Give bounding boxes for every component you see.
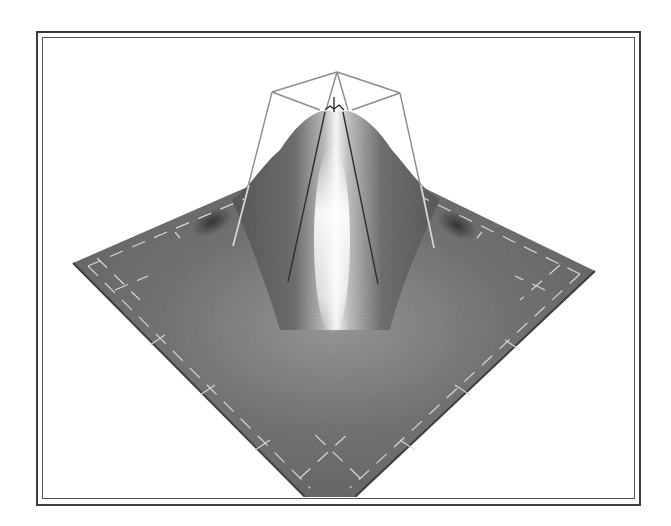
wire-top-right	[337, 72, 400, 93]
wire-right-to-peak	[352, 93, 400, 110]
surface-plot	[0, 0, 671, 526]
wire-apex-left	[326, 72, 337, 110]
wire-left-to-peak	[272, 92, 320, 110]
wire-top-left	[272, 72, 337, 92]
wire-apex-right	[337, 72, 348, 110]
specular-highlight	[314, 145, 350, 335]
